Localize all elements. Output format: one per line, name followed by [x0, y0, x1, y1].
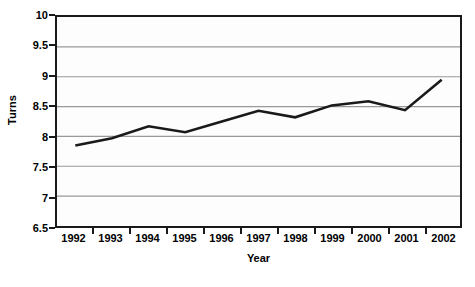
y-tick-mark [49, 136, 55, 138]
y-tick-mark [49, 14, 55, 16]
y-tick-label: 7.5 [33, 161, 48, 173]
x-tick-mark [92, 228, 94, 234]
y-tick-mark [49, 75, 55, 77]
x-tick-mark [425, 228, 427, 234]
y-tick-label: 8 [42, 131, 48, 143]
x-tick-label: 1998 [283, 232, 307, 244]
y-tick-label: 8.5 [33, 100, 48, 112]
x-tick-label: 1997 [246, 232, 270, 244]
x-tick-label: 1992 [61, 232, 85, 244]
x-tick-mark [314, 228, 316, 234]
x-axis-title: Year [55, 252, 462, 264]
x-tick-label: 1994 [135, 232, 159, 244]
x-tick-label: 2001 [394, 232, 418, 244]
x-tick-mark [351, 228, 353, 234]
chart-figure: Turns 109.598.587.576.5 1992199319941995… [0, 0, 475, 287]
y-tick-mark [49, 197, 55, 199]
x-tick-mark [388, 228, 390, 234]
y-tick-mark [49, 44, 55, 46]
data-series-line [57, 17, 460, 226]
y-tick-mark [49, 227, 55, 229]
x-tick-label: 1993 [98, 232, 122, 244]
x-tick-mark [240, 228, 242, 234]
y-tick-mark [49, 166, 55, 168]
x-tick-mark [166, 228, 168, 234]
x-tick-mark [129, 228, 131, 234]
x-tick-mark [203, 228, 205, 234]
y-tick-label: 10 [36, 9, 48, 21]
series-turns-line [75, 80, 441, 146]
x-tick-label: 1995 [172, 232, 196, 244]
x-tick-label: 2000 [357, 232, 381, 244]
y-tick-mark [49, 105, 55, 107]
x-tick-label: 1996 [209, 232, 233, 244]
x-tick-label: 2002 [431, 232, 455, 244]
x-axis-tick-labels: 1992199319941995199619971998199920002001… [55, 232, 462, 248]
y-tick-label: 6.5 [33, 222, 48, 234]
y-axis-tick-labels: 109.598.587.576.5 [0, 15, 48, 228]
y-tick-label: 9.5 [33, 39, 48, 51]
y-tick-label: 9 [42, 70, 48, 82]
x-tick-mark [277, 228, 279, 234]
x-tick-label: 1999 [320, 232, 344, 244]
y-tick-label: 7 [42, 192, 48, 204]
plot-area [55, 15, 462, 228]
